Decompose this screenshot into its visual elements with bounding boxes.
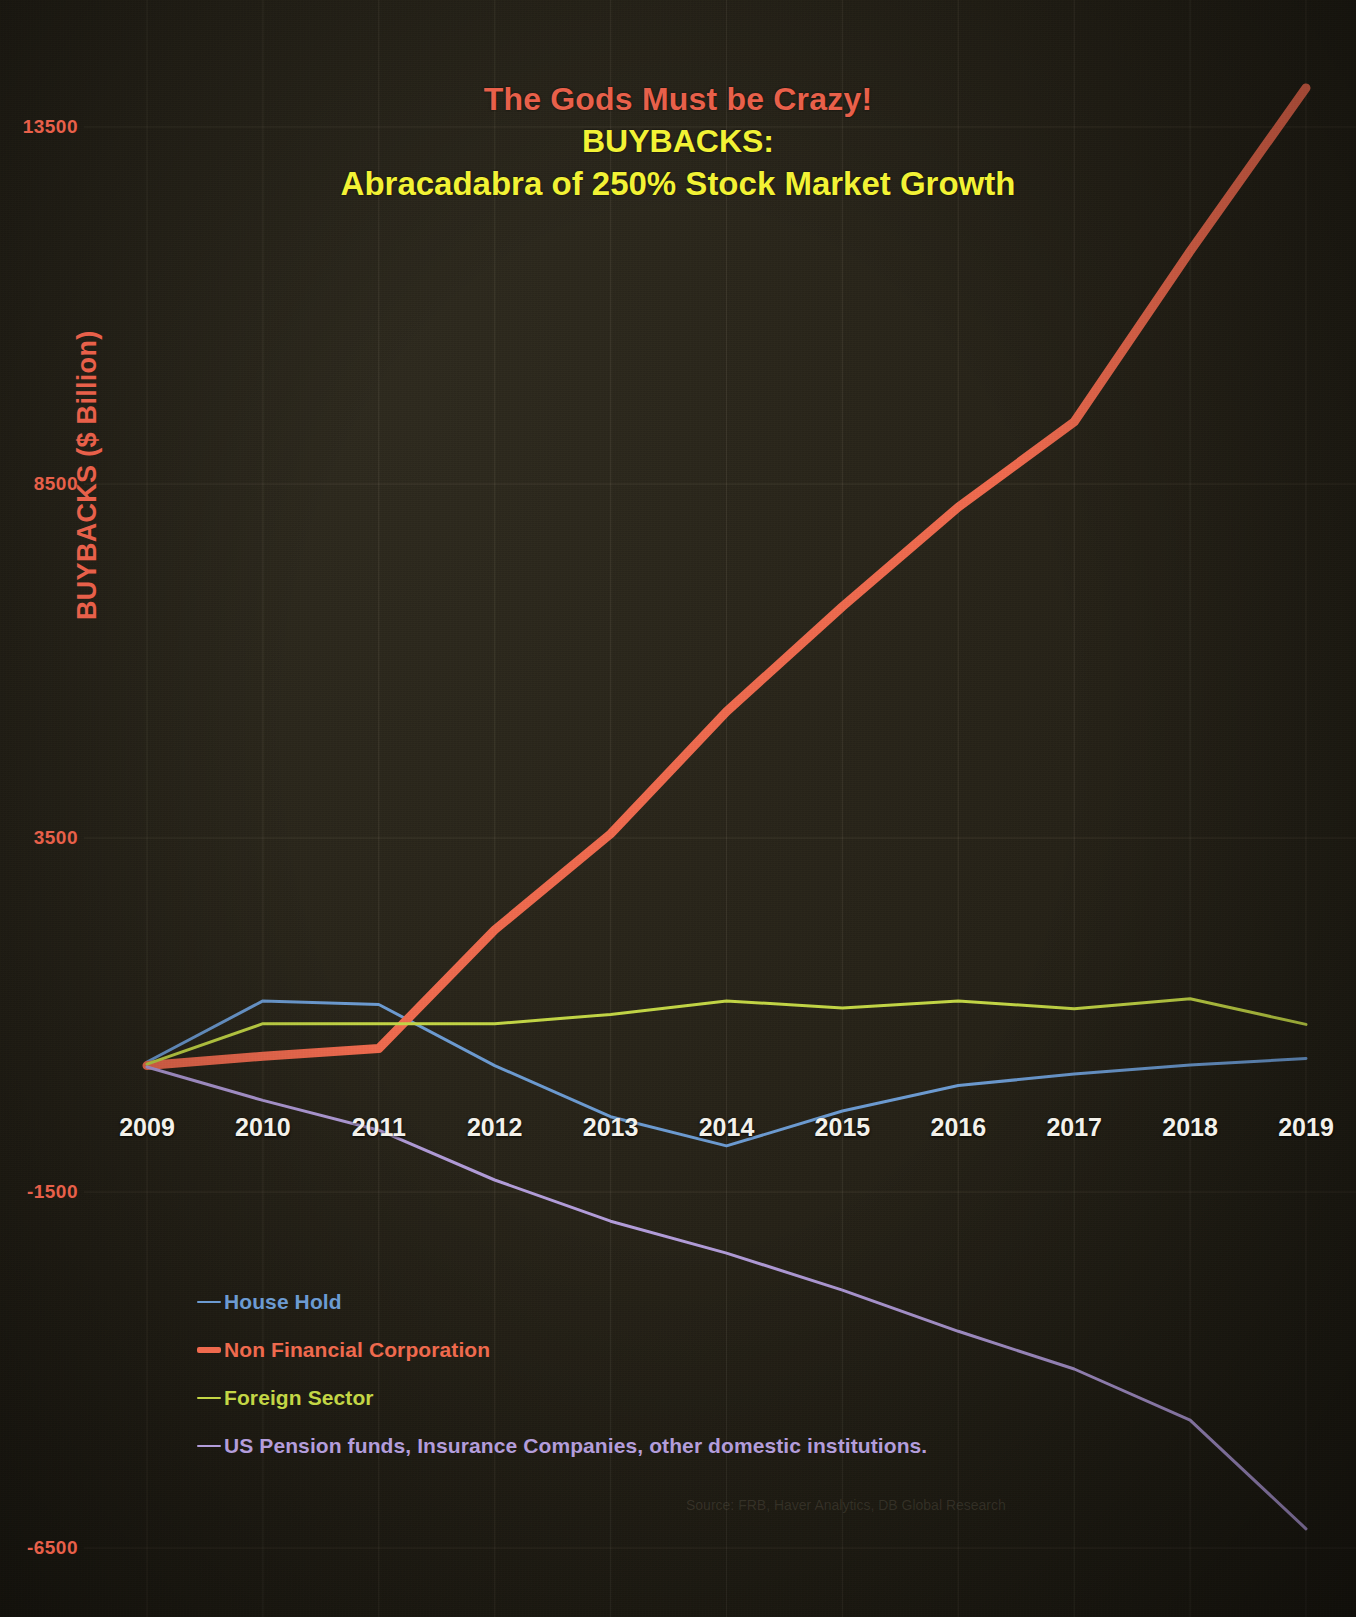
x-tick-label: 2014 (699, 1113, 755, 1142)
source-note: Source: FRB, Haver Analytics, DB Global … (686, 1497, 1006, 1513)
x-tick-label: 2011 (352, 1113, 406, 1142)
legend-item[interactable]: Foreign Sector (197, 1374, 927, 1422)
x-tick-label: 2015 (815, 1113, 871, 1142)
y-tick-label: -1500 (0, 1181, 78, 1203)
legend-swatch-icon (197, 1445, 221, 1448)
x-tick-label: 2017 (1046, 1113, 1102, 1142)
y-tick-label: -6500 (0, 1537, 78, 1559)
legend-item-label: House Hold (224, 1290, 342, 1314)
y-tick-label: 3500 (0, 827, 78, 849)
x-tick-label: 2016 (930, 1113, 986, 1142)
title-line-1: The Gods Must be Crazy! (0, 78, 1356, 120)
title-line-3: Abracadabra of 250% Stock Market Growth (0, 162, 1356, 206)
legend-swatch-icon (197, 1397, 221, 1400)
legend-swatch-icon (197, 1347, 221, 1353)
x-tick-label: 2013 (583, 1113, 639, 1142)
legend-item[interactable]: US Pension funds, Insurance Companies, o… (197, 1422, 927, 1470)
x-tick-label: 2009 (119, 1113, 175, 1142)
chart-legend: House HoldNon Financial CorporationForei… (197, 1278, 927, 1470)
title-line-2: BUYBACKS: (0, 120, 1356, 162)
x-tick-label: 2019 (1278, 1113, 1334, 1142)
legend-swatch-icon (197, 1301, 221, 1304)
x-tick-label: 2012 (467, 1113, 523, 1142)
legend-item-label: Non Financial Corporation (224, 1338, 490, 1362)
legend-item[interactable]: House Hold (197, 1278, 927, 1326)
legend-item-label: Foreign Sector (224, 1386, 374, 1410)
x-tick-label: 2018 (1162, 1113, 1218, 1142)
legend-item-label: US Pension funds, Insurance Companies, o… (224, 1434, 927, 1458)
chart-canvas: The Gods Must be Crazy! BUYBACKS: Abraca… (0, 0, 1356, 1617)
x-tick-label: 2010 (235, 1113, 291, 1142)
y-tick-label: 8500 (0, 473, 78, 495)
legend-item[interactable]: Non Financial Corporation (197, 1326, 927, 1374)
chart-title-block: The Gods Must be Crazy! BUYBACKS: Abraca… (0, 78, 1356, 206)
